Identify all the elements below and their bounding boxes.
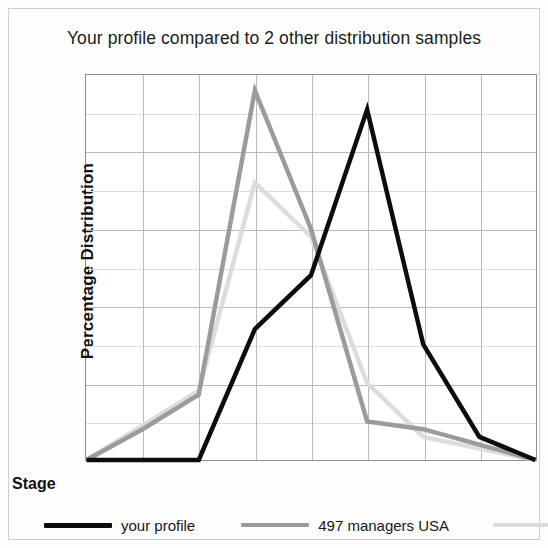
legend-swatch-us-population — [493, 523, 548, 527]
stage-axis-label: Stage — [12, 475, 56, 493]
legend-item-497-managers-usa: 497 managers USA — [241, 517, 449, 534]
legend-swatch-497-managers-usa — [241, 523, 309, 527]
chart-legend: your profile 497 managers USA n=4510 US … — [14, 512, 534, 538]
chart-title: Your profile compared to 2 other distrib… — [0, 28, 548, 49]
legend-item-your-profile: your profile — [44, 517, 195, 534]
plot-area: Percentage Distribution 01020304050 Stag… — [85, 74, 537, 461]
legend-label-497-managers-usa: 497 managers USA — [318, 517, 449, 534]
x-axis-tick-labels: Imp.Opp.Dip.Exp.Ach.Ind.Stra.Mag.Iro. — [86, 473, 536, 497]
data-lines — [86, 75, 536, 460]
legend-label-your-profile: your profile — [121, 517, 195, 534]
legend-swatch-your-profile — [44, 523, 112, 528]
chart-page: Your profile compared to 2 other distrib… — [0, 0, 548, 548]
series-line-your-profile — [86, 110, 535, 460]
legend-item-us-population: n=4510 US pop. — [493, 517, 548, 534]
